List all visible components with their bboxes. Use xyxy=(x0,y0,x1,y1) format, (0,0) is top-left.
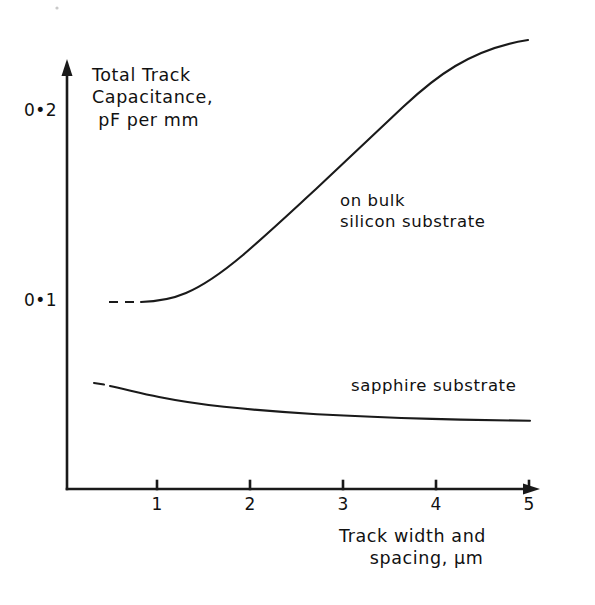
y-tick-label-0-2: 0•2 xyxy=(24,100,57,122)
y-axis-title: Total TrackCapacitance, pF per mm xyxy=(92,64,213,131)
sapphire-curve-lead xyxy=(94,383,104,385)
x-tick-label-2: 2 xyxy=(238,494,262,516)
x-tick-label-1: 1 xyxy=(145,494,169,516)
plot-canvas xyxy=(0,0,595,605)
y-axis-title-line-2: Capacitance, xyxy=(92,87,213,107)
x-axis-arrow-icon xyxy=(523,484,540,495)
x-tick-label-4: 4 xyxy=(424,494,448,516)
series-label-sapphire: sapphire substrate xyxy=(351,375,516,396)
y-axis-title-line-3: pF per mm xyxy=(98,110,199,130)
series-label-silicon: on bulksilicon substrate xyxy=(340,190,486,232)
chart-figure: Total TrackCapacitance, pF per mm 0•2 0•… xyxy=(0,0,595,605)
x-tick-label-3: 3 xyxy=(331,494,355,516)
x-axis-title-line-2: spacing, µm xyxy=(370,548,484,568)
x-axis-title: Track width and spacing, µm xyxy=(339,525,486,570)
y-axis-title-line-1: Total Track xyxy=(92,65,191,85)
series-label-silicon-line-1: on bulk xyxy=(340,191,405,210)
stray-speck xyxy=(55,6,58,9)
x-axis-title-line-1: Track width and xyxy=(339,526,486,546)
x-tick-label-5: 5 xyxy=(517,494,541,516)
series-label-silicon-line-2: silicon substrate xyxy=(340,212,486,231)
y-tick-label-0-1: 0•1 xyxy=(24,290,57,312)
y-axis-arrow-icon xyxy=(62,59,73,76)
